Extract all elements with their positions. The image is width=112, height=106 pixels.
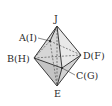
label-d-f: D(F)	[83, 50, 105, 61]
label-e: E	[54, 88, 61, 99]
label-b-h: B(H)	[7, 53, 30, 64]
label-c-g: C(G)	[76, 70, 98, 81]
label-a-i: A(I)	[18, 32, 37, 43]
octahedron-diagram: J A(I) B(H) D(F) C(G) E	[0, 0, 112, 106]
label-j: J	[53, 13, 58, 24]
